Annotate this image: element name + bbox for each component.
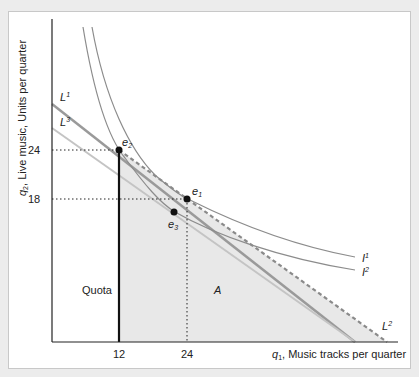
label-l2: L2 [382, 320, 392, 332]
label-l1: L1 [60, 91, 70, 103]
area-a-label: A [213, 284, 221, 296]
point-e1 [184, 196, 191, 203]
y-tick-18: 18 [28, 193, 40, 205]
quota-diagram: 24 18 12 24 q1, Music tracks per quarter… [0, 0, 419, 377]
y-tick-24: 24 [28, 144, 40, 156]
y-axis-title: q2, Live music, Units per quarter [16, 40, 29, 196]
x-axis-title: q1, Music tracks per quarter [272, 348, 406, 361]
label-i2: I2 [362, 266, 369, 278]
x-axis-label: , Music tracks per quarter [282, 348, 406, 360]
label-l3: L3 [60, 116, 70, 128]
quota-label: Quota [82, 284, 113, 296]
label-i1: I1 [362, 252, 369, 264]
label-e1: e1 [192, 185, 202, 198]
x-tick-12: 12 [113, 348, 125, 360]
y-axis-label: Live music, Units per quarter [16, 40, 28, 180]
x-tick-24: 24 [181, 348, 193, 360]
label-e2: e2 [122, 136, 132, 149]
point-e3 [171, 209, 178, 216]
